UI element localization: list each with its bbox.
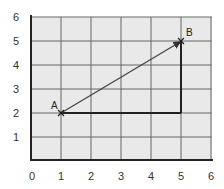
x-tick: 4 (148, 170, 154, 182)
y-tick: 4 (13, 59, 19, 71)
x-tick: 6 (208, 170, 214, 182)
x-tick-labels: 0 1 2 3 4 5 6 (29, 170, 214, 182)
x-tick: 3 (118, 170, 124, 182)
coordinate-diagram: A B 6 5 4 3 2 1 0 1 2 3 4 5 6 (0, 0, 224, 189)
y-tick: 3 (13, 83, 19, 95)
x-tick: 2 (88, 170, 94, 182)
x-tick: 5 (178, 170, 184, 182)
y-tick: 1 (13, 131, 19, 143)
x-tick: 1 (58, 170, 64, 182)
point-a-label: A (51, 100, 58, 111)
y-tick: 2 (13, 107, 19, 119)
x-tick: 0 (29, 170, 35, 182)
y-tick: 6 (13, 11, 19, 23)
y-tick: 5 (13, 35, 19, 47)
y-tick-labels: 6 5 4 3 2 1 (13, 11, 19, 143)
point-b-label: B (186, 27, 193, 38)
